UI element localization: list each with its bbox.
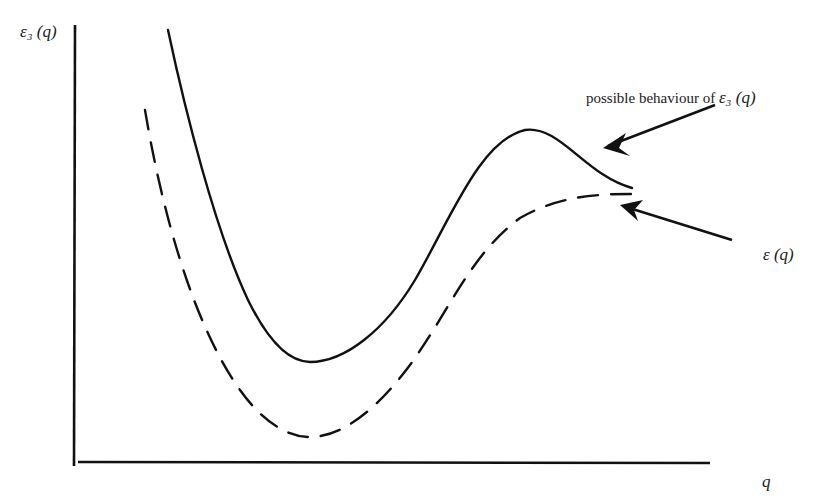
- y-axis: [74, 25, 75, 466]
- annotation-epsilon-q: ε (q): [763, 245, 794, 265]
- x-axis: [78, 462, 710, 463]
- annotation-text: possible behaviour of: [586, 90, 719, 106]
- diagram-canvas: [0, 0, 813, 504]
- annotation-symbol: ε₃ (q): [719, 88, 756, 107]
- arrow-to-solid-curve: [603, 105, 715, 156]
- y-axis-label: ε₃ (q): [20, 22, 57, 42]
- arrow-to-dashed-curve: [620, 200, 732, 240]
- solid-curve: [168, 30, 632, 362]
- annotation-possible-behaviour: possible behaviour of ε₃ (q): [586, 88, 756, 108]
- x-axis-label: q: [762, 472, 771, 492]
- dashed-curve: [145, 110, 632, 437]
